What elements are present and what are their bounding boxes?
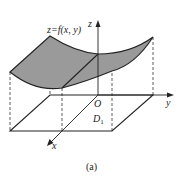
region-d1: [10, 95, 153, 131]
z-axis-label: z: [87, 18, 92, 29]
x-axis-label: x: [51, 140, 57, 151]
z-axis-arrow-icon: [96, 20, 101, 27]
origin-label: O: [94, 98, 101, 109]
x-axis: [50, 95, 98, 143]
surface-patch: [10, 36, 153, 89]
surface-label: z=f(x, y): [46, 24, 82, 36]
region-label: D1: [92, 113, 104, 126]
figure-caption: (a): [86, 161, 97, 173]
y-axis-label: y: [165, 97, 171, 108]
region-label-sub: 1: [100, 118, 104, 126]
surface-diagram: z=f(x, y) z y x O D1 (a): [0, 0, 179, 181]
